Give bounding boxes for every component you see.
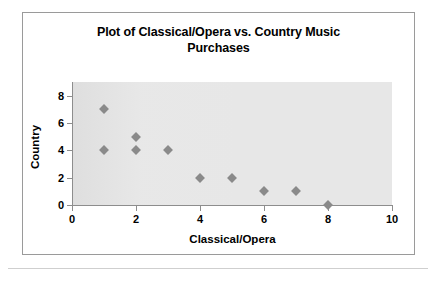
x-axis-tick: [72, 206, 73, 211]
y-axis-tick-label: 8: [42, 91, 64, 102]
x-axis-tick-label: 4: [185, 213, 215, 225]
page-separator-rule: [8, 268, 428, 269]
chart-title-line-1: Plot of Classical/Opera vs. Country Musi…: [22, 24, 415, 40]
x-axis-tick: [136, 206, 137, 211]
y-axis-line: [72, 82, 73, 206]
x-axis-tick-label: 0: [57, 213, 87, 225]
x-axis-tick-label: 6: [249, 213, 279, 225]
x-axis-tick: [200, 206, 201, 211]
y-axis-tick: [67, 123, 72, 124]
x-axis-line: [72, 205, 393, 206]
y-axis-tick-label: 4: [42, 145, 64, 156]
plot-area: [72, 82, 392, 205]
y-axis-tick-label: 6: [42, 118, 64, 129]
x-axis-tick: [264, 206, 265, 211]
y-axis-tick: [67, 150, 72, 151]
chart-title-line-2: Purchases: [22, 40, 415, 56]
y-axis-tick-label: 0: [42, 200, 64, 211]
y-axis-tick-label: 2: [42, 173, 64, 184]
x-axis-tick-label: 8: [313, 213, 343, 225]
x-axis-title: Classical/Opera: [72, 233, 393, 245]
y-axis-tick: [67, 178, 72, 179]
y-axis-title: Country: [29, 107, 41, 187]
x-axis-tick-label: 10: [377, 213, 407, 225]
y-axis-tick: [67, 96, 72, 97]
x-axis-tick-label: 2: [121, 213, 151, 225]
chart-title: Plot of Classical/Opera vs. Country Musi…: [22, 24, 415, 56]
x-axis-tick: [392, 206, 393, 211]
